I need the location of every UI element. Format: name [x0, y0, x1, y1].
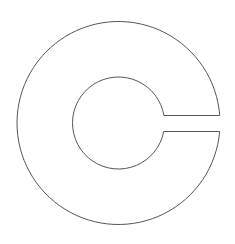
c-ring-outline — [17, 22, 220, 225]
c-shape-diagram — [0, 0, 235, 244]
